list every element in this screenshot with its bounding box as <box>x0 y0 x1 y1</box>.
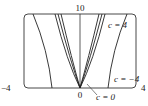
c4-label: c = 4 <box>108 20 128 30</box>
origin-label: 0 <box>78 90 83 100</box>
curve-c4-right <box>80 14 99 88</box>
cneg4-label: c = −4 <box>114 74 140 84</box>
curve-c4-left <box>61 14 80 88</box>
chart: 10 −4 4 0 c = 4 c = −4 c = 0 <box>0 0 148 106</box>
y-max-label: 10 <box>76 3 86 13</box>
curve-cneg4-left <box>33 14 52 88</box>
x-max-label: 4 <box>141 83 146 93</box>
x-min-label: −4 <box>1 83 11 93</box>
c0-label: c = 0 <box>96 92 116 102</box>
